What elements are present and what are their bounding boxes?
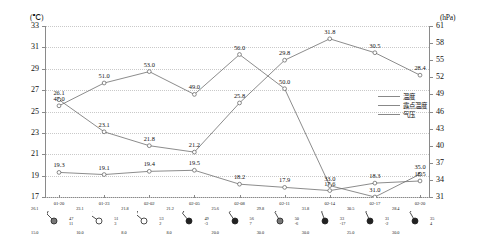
data-point-label: 50.0 [279,78,290,85]
station-dewpoint: 25.0 [347,230,355,235]
data-point-label: 56.0 [234,44,245,51]
wind-barb-icon [137,211,155,227]
left-axis-tick-label: 31 [23,43,39,51]
station-dewpoint: 10.0 [76,230,84,235]
station-pressure-tendency: -3 [204,221,208,226]
legend-item-露点温度[interactable]: 露点温度 [378,101,448,110]
station-temp: 28.4 [392,206,400,211]
legend-swatch [378,105,400,106]
station-dewpoint: 30.0 [392,230,400,235]
series-marker [57,171,61,175]
series-marker [283,58,287,62]
station-dewpoint: 8.0 [121,230,126,235]
station-pressure-tendency: -2 [385,221,389,226]
data-point-label: 53.0 [144,61,155,68]
left-axis-tick-label: 21 [23,150,39,158]
data-point-label: 26.1 [53,89,64,96]
series-marker [147,169,151,173]
legend-label: 温度 [403,92,415,101]
series-marker [418,179,422,183]
station-dewpoint: 8.0 [166,230,171,235]
station-temp: 26.1 [31,206,39,211]
series-marker [57,104,61,108]
wind-barb-icon [228,211,246,227]
data-point-label: 28.4 [414,64,425,71]
station-temp: 23.1 [76,206,84,211]
station-pressure-tendency: 4 [430,221,432,226]
data-point-label: 49.0 [189,83,200,90]
station-pressure-tendency: 7 [250,221,252,226]
station-model-row: 26.115.0471123.110.051321.88.053221.28.0… [45,206,430,242]
left-axis-tick-label: 25 [23,108,39,116]
right-axis-tick-label: 55 [436,56,454,64]
data-point-label: 19.4 [144,160,155,167]
data-point-label: 18.5 [414,170,425,177]
series-marker [238,182,242,186]
series-marker [238,101,242,105]
legend-item-温度[interactable]: 温度 [378,92,448,101]
station-pressure-tendency: 3 [114,221,116,226]
series-marker [102,173,106,177]
right-axis-tick-label: 37 [436,159,454,167]
data-point-label: 19.1 [99,164,110,171]
left-axis-tick-label: 19 [23,172,39,180]
station-dewpoint: 20.0 [212,230,220,235]
legend-swatch [378,96,400,97]
right-axis-tickmark [430,163,433,164]
station-temp: 29.8 [257,206,265,211]
wind-barb-icon [182,211,200,227]
station-temp: 21.8 [121,206,129,211]
series-marker [147,70,151,74]
right-axis-tick-label: 58 [436,39,454,47]
weather-chart-page: (℃) (hPa) 333129272523211917 61585552494… [0,0,479,248]
series-marker [373,181,377,185]
series-marker [283,87,287,91]
data-point-label: 51.0 [99,72,110,79]
data-point-label: 17.6 [324,180,335,187]
data-point-label: 29.8 [279,49,290,56]
series-marker [102,130,106,134]
series-marker [418,73,422,77]
data-point-label: 21.8 [144,135,155,142]
right-axis-tick-label: 31 [436,193,454,201]
wind-barb-icon [273,211,291,227]
station-pressure-tendency: -6 [295,221,299,226]
station-dewpoint: 15.0 [31,230,39,235]
left-axis-tick-label: 33 [23,22,39,30]
wind-barb-icon [318,211,336,227]
right-axis-tick-label: 34 [436,176,454,184]
right-axis-tickmark [430,197,433,198]
legend: 温度露点温度气压 [378,92,448,119]
right-axis-tickmark [430,77,433,78]
station-temp: 31.8 [302,206,310,211]
station-temp: 25.6 [212,206,220,211]
legend-item-气压[interactable]: 气压 [378,110,448,119]
data-point-label: 30.5 [369,42,380,49]
data-point-label: 19.3 [53,161,64,168]
left-axis-tick-label: 29 [23,65,39,73]
legend-label: 露点温度 [403,101,427,110]
series-marker [283,185,287,189]
series-marker [328,37,332,41]
series-marker [192,150,196,154]
station-temp: 30.5 [347,206,355,211]
right-axis-tickmark [430,26,433,27]
left-axis-tick-label: 17 [23,193,39,201]
right-axis-tickmark [430,43,433,44]
data-point-label: 17.9 [279,176,290,183]
station-pressure-tendency: 2 [159,221,161,226]
station-dewpoint: 30.0 [257,230,265,235]
data-point-label: 25.8 [234,92,245,99]
wind-barb-icon [408,211,426,227]
data-point-label: 19.5 [189,159,200,166]
series-marker [192,93,196,97]
wind-barb-icon [363,211,381,227]
station-dewpoint: 30.0 [302,230,310,235]
right-axis-tick-label: 61 [436,22,454,30]
data-point-label: 31.8 [324,28,335,35]
station-pressure-tendency: 11 [69,221,73,226]
station-temp: 21.2 [166,206,174,211]
legend-swatch [378,114,400,115]
right-axis-tick-label: 52 [436,73,454,81]
station-model: 28.430.0354 [392,206,448,242]
